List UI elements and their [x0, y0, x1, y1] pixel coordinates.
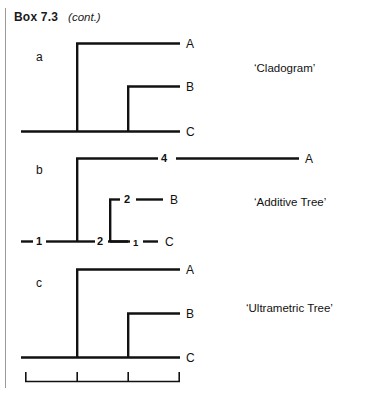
panel-c-caption: ‘Ultrametric Tree’	[246, 302, 333, 314]
panel-a-tip-label-c: C	[186, 125, 195, 139]
panel-c-lines	[21, 270, 180, 359]
panel-letter-b: b	[36, 163, 43, 177]
panel-b-branch-value-b: 2	[124, 193, 130, 205]
panel-b-branch-value-a: 4	[161, 152, 167, 164]
panel-b-branch-value-internal: 2	[97, 235, 103, 247]
panel-b-tip-label-a: A	[305, 152, 313, 166]
panel-letter-c: c	[36, 276, 42, 290]
panel-a-caption: ‘Cladogram’	[254, 62, 315, 74]
panel-b-branch-value-root-stem: 1	[36, 235, 42, 247]
panel-a-tip-label-b: B	[186, 80, 194, 94]
panel-letter-a: a	[36, 50, 43, 64]
scale-bar	[25, 372, 180, 382]
panel-b-tip-label-c: C	[165, 235, 174, 249]
panel-a-lines	[21, 44, 180, 133]
panel-c-tip-label-a: A	[186, 263, 194, 277]
panel-a-tip-label-a: A	[186, 37, 194, 51]
figure-box-7-3: Box 7.3(cont.)	[0, 0, 371, 395]
panel-c-tip-label-b: B	[186, 307, 194, 321]
panel-c-tip-label-c: C	[186, 351, 195, 365]
panel-b-caption: ‘Additive Tree’	[254, 196, 326, 208]
panel-b-tip-label-b: B	[170, 193, 178, 207]
panel-b-branch-value-c: 1	[133, 237, 138, 248]
